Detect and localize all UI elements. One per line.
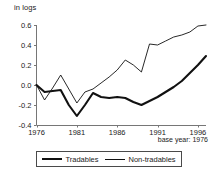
y-tick-label: 0.0 [21, 81, 31, 90]
legend-label-tradables: Tradables [65, 155, 98, 164]
y-axis-tick-labels: 0.60.40.20.0-0.2-0.4 [19, 21, 32, 130]
chart-legend: Tradables Non-tradables [36, 151, 182, 167]
legend-swatch-tradables-icon [42, 158, 62, 160]
base-year-annotation: base year: 1976 [158, 136, 208, 143]
legend-item-non-tradables: Non-tradables [105, 155, 175, 164]
legend-label-non-tradables: Non-tradables [128, 155, 175, 164]
legend-swatch-non-tradables-icon [105, 159, 125, 160]
x-tick-label: 1981 [69, 128, 86, 137]
tick-marks [34, 26, 199, 128]
axis-lines [37, 25, 207, 126]
x-tick-label: 1986 [109, 128, 126, 137]
chart-container: in logs 0.60.40.20.0-0.2-0.4 19761981198… [0, 0, 216, 173]
y-tick-label: -0.2 [19, 101, 32, 110]
y-tick-label: 0.2 [21, 61, 31, 70]
legend-item-tradables: Tradables [42, 155, 98, 164]
x-tick-label: 1976 [28, 128, 45, 137]
plot-area: 0.60.40.20.0-0.2-0.4 1976198119861991199… [0, 0, 216, 173]
y-tick-label: 0.4 [21, 41, 31, 50]
y-tick-label: 0.6 [21, 21, 31, 30]
